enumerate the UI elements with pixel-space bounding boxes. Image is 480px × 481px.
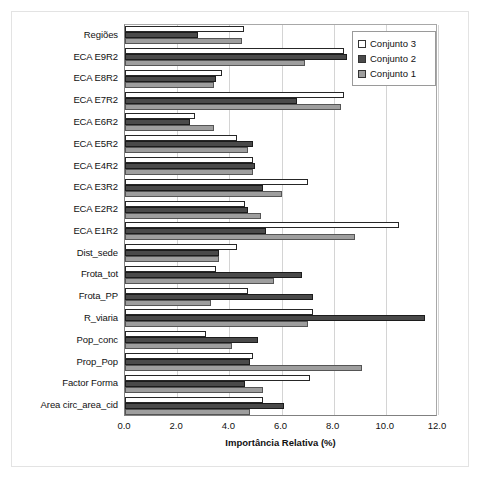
y-tick-label: Dist_sede [0, 247, 118, 258]
y-tick-label: Area circ_area_cid [0, 399, 118, 410]
legend-swatch-icon [358, 55, 366, 63]
legend-label: Conjunto 3 [370, 38, 416, 49]
y-tick-label: ECA E1R2 [0, 225, 118, 236]
y-tick-label: Frota_tot [0, 268, 118, 279]
y-tick-label: ECA E3R2 [0, 181, 118, 192]
y-tick-label: Frota_PP [0, 290, 118, 301]
x-tick-label: 10.0 [376, 420, 395, 432]
x-tick-label: 12.0 [428, 420, 447, 432]
x-tick-label: 8.0 [326, 420, 339, 432]
x-tick-label: 0.0 [117, 420, 130, 432]
chart-figure: RegiõesECA E9R2ECA E8R2ECA E7R2ECA E6R2E… [0, 0, 480, 481]
legend-item: Conjunto 3 [358, 36, 431, 51]
x-tick-label: 6.0 [274, 420, 287, 432]
y-tick-label: ECA E9R2 [0, 51, 118, 62]
x-axis-tick-labels: 0.02.04.06.08.010.012.0 [0, 420, 480, 434]
x-axis-title: Importância Relativa (%) [124, 437, 437, 448]
legend-swatch-icon [358, 70, 366, 78]
legend-item: Conjunto 2 [358, 51, 431, 66]
y-tick-label: ECA E5R2 [0, 138, 118, 149]
chart-legend: Conjunto 3Conjunto 2Conjunto 1 [352, 31, 436, 86]
y-tick-label: Regiões [0, 29, 118, 40]
y-tick-label: Factor Forma [0, 377, 118, 388]
y-tick-label: Prop_Pop [0, 356, 118, 367]
legend-item: Conjunto 1 [358, 66, 431, 81]
x-tick-label: 4.0 [222, 420, 235, 432]
y-tick-label: R_viaria [0, 312, 118, 323]
y-tick-label: ECA E8R2 [0, 72, 118, 83]
y-tick-label: ECA E7R2 [0, 94, 118, 105]
legend-label: Conjunto 1 [370, 68, 416, 79]
y-tick-label: ECA E4R2 [0, 160, 118, 171]
x-tick-label: 2.0 [170, 420, 183, 432]
y-tick-label: ECA E6R2 [0, 116, 118, 127]
y-tick-label: ECA E2R2 [0, 203, 118, 214]
y-tick-label: Pop_conc [0, 334, 118, 345]
legend-label: Conjunto 2 [370, 53, 416, 64]
legend-swatch-icon [358, 40, 366, 48]
